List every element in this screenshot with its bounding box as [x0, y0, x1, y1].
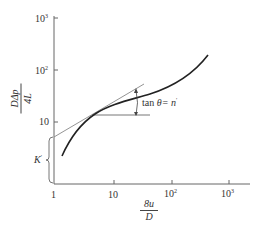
x-axis-label: 8u D — [140, 199, 158, 222]
y-axis-label-numerator: DΔp — [10, 84, 22, 114]
angle-arc — [136, 90, 138, 115]
tangent-line — [54, 84, 144, 137]
x-tick-label-100: 102 — [164, 188, 177, 199]
x-tick-label-10: 10 — [108, 190, 118, 200]
intercept-label: K′ — [34, 154, 42, 165]
y-axis-label: DΔp 4L — [10, 84, 33, 114]
flow-curve — [62, 55, 208, 156]
y-axis-label-denominator: 4L — [22, 84, 33, 114]
y-tick-label-1000: 103 — [35, 13, 48, 24]
x-axis-label-denominator: D — [140, 211, 158, 222]
x-tick-label-1000: 103 — [221, 188, 234, 199]
arrow-up-icon — [134, 88, 138, 93]
y-tick-label-100: 102 — [35, 65, 48, 76]
x-tick-label-1: 1 — [51, 190, 56, 200]
intercept-bracket — [46, 137, 53, 183]
slope-annotation: tan θ= n′ — [142, 97, 177, 108]
x-axis-label-numerator: 8u — [140, 199, 158, 211]
y-tick-label-10: 10 — [39, 117, 49, 127]
